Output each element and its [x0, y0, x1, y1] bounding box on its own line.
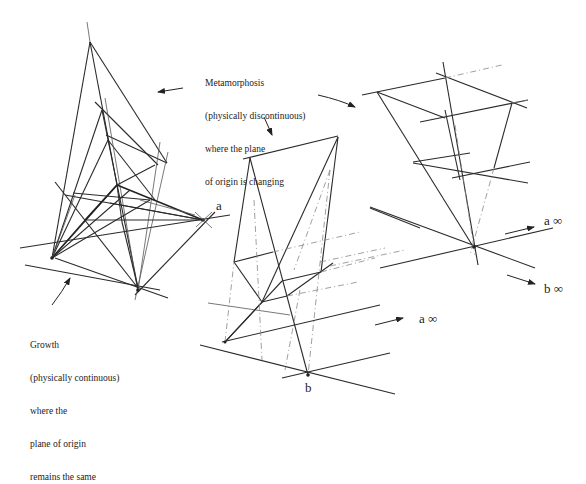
node — [136, 288, 140, 292]
point-label-a-infinity-center: a ∞ — [419, 311, 437, 327]
annotation-line: where the plane — [205, 144, 306, 155]
annotation-line: (physically continuous) — [30, 373, 119, 384]
edge — [494, 103, 512, 168]
edge — [443, 62, 478, 265]
annotation-line: of origin is changing — [205, 177, 306, 188]
edge — [377, 92, 474, 248]
arrow-growth — [52, 278, 70, 305]
ground-line — [135, 212, 215, 295]
construction-line — [254, 200, 262, 360]
node — [472, 245, 476, 249]
edge — [87, 22, 90, 42]
ground-line — [370, 208, 420, 228]
growth-annotation: Growth (physically continuous) where the… — [30, 318, 119, 484]
edge — [321, 137, 338, 272]
growth-figure — [20, 22, 230, 300]
node — [224, 341, 227, 344]
construction-line — [320, 248, 385, 262]
node — [50, 256, 54, 260]
edge — [234, 252, 273, 262]
annotation-line: remains the same — [30, 472, 119, 483]
construction-line — [285, 290, 300, 370]
edge — [52, 140, 108, 258]
construction-line — [225, 262, 234, 342]
annotation-line: plane of origin — [30, 439, 119, 450]
edge — [117, 165, 155, 185]
point-label-b: b — [305, 380, 312, 396]
edge — [140, 200, 195, 215]
ground-line — [200, 345, 395, 394]
edge — [282, 272, 321, 281]
edge — [138, 142, 160, 290]
metamorphosis-figure-right — [320, 62, 553, 284]
edge — [452, 162, 530, 178]
arrow-to-right-figure — [318, 95, 355, 107]
edge — [52, 42, 90, 258]
edge — [362, 78, 445, 95]
edge — [105, 98, 138, 292]
construction-line — [455, 125, 475, 255]
ground-line — [208, 303, 290, 315]
ground-line — [380, 228, 553, 268]
ground-line — [282, 353, 390, 378]
annotation-line: (physically discontinuous) — [205, 111, 306, 122]
construction-line — [330, 250, 405, 266]
point-label-a-infinity-right: a ∞ — [544, 213, 562, 229]
edge — [52, 200, 150, 258]
annotation-line: where the — [30, 406, 119, 417]
node-b — [306, 373, 310, 377]
metamorphosis-annotation: Metamorphosis (physically discontinuous)… — [205, 56, 306, 199]
edge — [287, 263, 333, 296]
arrow-to-growth-figure — [158, 88, 183, 92]
annotation-line: Metamorphosis — [205, 78, 306, 89]
ground-line — [222, 305, 380, 342]
point-label-a: a — [216, 198, 222, 214]
annotation-line: Growth — [30, 340, 119, 351]
arrow-a-infinity-center — [375, 318, 403, 325]
edge — [413, 153, 470, 162]
edge — [377, 92, 445, 118]
point-label-b-infinity-right: b ∞ — [544, 281, 563, 297]
arrow-b-infinity-right — [507, 275, 535, 284]
construction-line — [273, 232, 360, 252]
construction-line — [445, 65, 502, 78]
